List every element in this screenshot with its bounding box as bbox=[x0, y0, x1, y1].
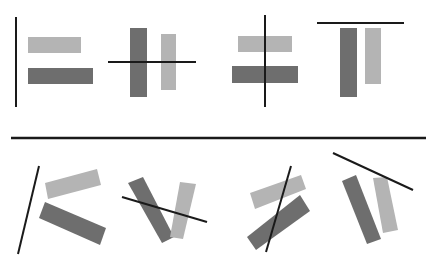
dark-bar bbox=[340, 28, 357, 97]
diagram-canvas bbox=[0, 0, 435, 262]
light-bar bbox=[365, 28, 381, 84]
light-bar bbox=[28, 37, 81, 53]
dark-bar bbox=[28, 68, 93, 84]
